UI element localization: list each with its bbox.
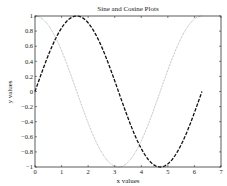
y-tick-label: −1 bbox=[26, 163, 33, 170]
axis-ticks: 01234567−1−0.8−0.6−0.4−0.200.20.40.60.81 bbox=[21, 12, 223, 175]
y-tick-label: −0.8 bbox=[21, 148, 33, 155]
x-axis-label: x values bbox=[116, 177, 139, 185]
y-tick-label: −0.6 bbox=[21, 133, 34, 140]
y-axis-label: y values bbox=[6, 80, 14, 103]
y-tick-label: 0 bbox=[30, 88, 33, 95]
x-tick-label: 3 bbox=[113, 168, 116, 175]
x-tick-label: 4 bbox=[140, 168, 144, 175]
y-tick-label: −0.2 bbox=[21, 103, 33, 110]
y-tick-label: 0.6 bbox=[25, 42, 34, 49]
x-tick-label: 5 bbox=[166, 168, 169, 175]
x-tick-label: 7 bbox=[219, 168, 223, 175]
y-tick-label: 0.4 bbox=[25, 58, 34, 65]
chart-title: Sine and Cosine Plots bbox=[97, 5, 159, 13]
y-tick-label: 1 bbox=[30, 12, 33, 19]
x-tick-label: 1 bbox=[60, 168, 63, 175]
plot-lines bbox=[35, 16, 202, 167]
x-tick-label: 6 bbox=[193, 168, 197, 175]
x-tick-label: 2 bbox=[87, 168, 90, 175]
x-tick-label: 0 bbox=[33, 168, 36, 175]
axes-box bbox=[35, 16, 221, 167]
sine-line bbox=[35, 16, 202, 167]
y-tick-label: −0.4 bbox=[21, 118, 34, 125]
y-tick-label: 0.2 bbox=[25, 73, 33, 80]
sine-cosine-chart: Sine and Cosine Plots 01234567−1−0.8−0.6… bbox=[0, 0, 227, 186]
y-tick-label: 0.8 bbox=[25, 27, 33, 34]
